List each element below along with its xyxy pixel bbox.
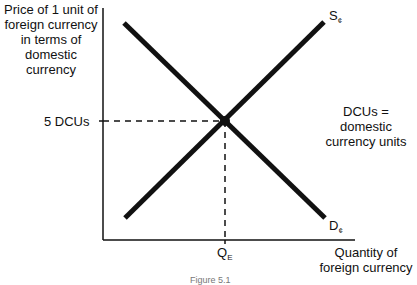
supply-label: S¢ [329, 8, 342, 28]
demand-subscript: ¢ [338, 226, 342, 235]
qe-subscript: E [227, 253, 232, 262]
dcu-note: DCUs = domestic currency units [318, 104, 414, 149]
supply-subscript: ¢ [338, 16, 342, 25]
figure-caption: Figure 5.1 [190, 275, 231, 285]
equilibrium-price-label: 5 DCUs [44, 114, 90, 129]
equilibrium-quantity-label: QE [217, 245, 232, 265]
supply-main: S [329, 8, 338, 23]
demand-label: D¢ [329, 218, 343, 238]
y-axis-label: Price of 1 unit of foreign currency in t… [2, 2, 100, 77]
qe-main: Q [217, 245, 227, 260]
demand-main: D [329, 218, 338, 233]
equilibrium-point [220, 116, 230, 126]
x-axis-label: Quantity of foreign currency [318, 245, 414, 275]
